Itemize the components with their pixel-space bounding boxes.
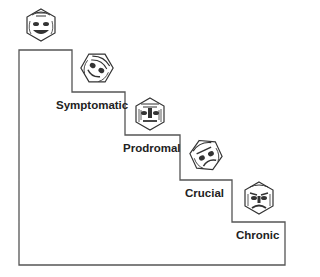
stage-label-chronic: Chronic bbox=[236, 229, 279, 241]
happy-mask-icon bbox=[27, 9, 55, 41]
stage-label-symptomatic: Symptomatic bbox=[56, 99, 128, 111]
distorted-mask-icon bbox=[187, 135, 226, 176]
frowning-mask-icon bbox=[245, 182, 273, 214]
neutral-mask-icon bbox=[136, 98, 164, 130]
smiling-mask-icon bbox=[77, 47, 117, 89]
stage-label-prodromal: Prodromal bbox=[123, 142, 181, 154]
stage-label-crucial: Crucial bbox=[185, 187, 224, 199]
